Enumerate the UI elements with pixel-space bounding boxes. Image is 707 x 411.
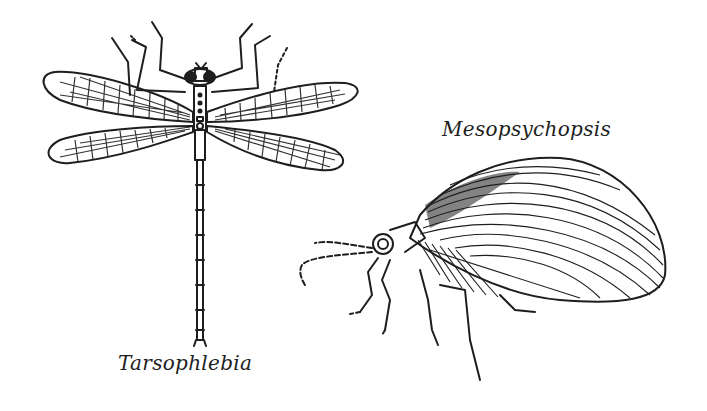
- mesopsychopsis-label: Mesopsychopsis: [442, 117, 611, 141]
- mesopsychopsis-illustration: [0, 0, 707, 411]
- tarsophlebia-label: Tarsophlebia: [118, 351, 252, 375]
- fossil-insects-figure: Tarsophlebia Mesopsychopsis: [0, 0, 707, 411]
